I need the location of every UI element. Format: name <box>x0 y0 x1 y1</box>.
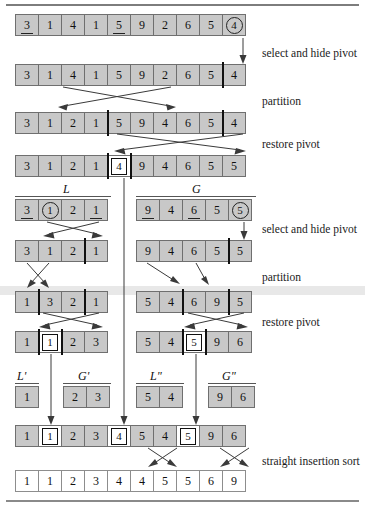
group-L-double-prime-cell: 4 <box>159 386 183 408</box>
partitioned-array-cell: 9 <box>130 112 154 134</box>
cell-value: 5 <box>231 160 237 172</box>
cell-value: 2 <box>72 391 78 403</box>
merged-array-cell: 1 <box>38 425 62 447</box>
caption-select-hide-pivot-1: select and hide pivot <box>262 47 357 59</box>
cell-value: 5 <box>208 19 214 31</box>
partitioned-array-cell: 6 <box>176 112 200 134</box>
top-rule <box>6 4 359 6</box>
cell-value: 4 <box>168 245 174 257</box>
caption-select-hide-pivot-2: select and hide pivot <box>262 223 357 235</box>
cell-value: 5 <box>116 69 122 81</box>
caption-partition-1: partition <box>262 95 301 107</box>
merged-array-cell: 9 <box>199 425 223 447</box>
cell-value: 4 <box>116 475 122 487</box>
merged-array-cell: 3 <box>84 425 108 447</box>
pivot-hidden-array-cell: 5 <box>199 64 223 86</box>
sub-L-hidden-row: 3121 <box>15 240 108 262</box>
sub-array-L-restored-cell: 3 <box>84 331 108 353</box>
cell-value: 4 <box>162 117 168 129</box>
sub-array-G-restored-cell: 9 <box>205 331 229 353</box>
sub-array-G-hidden-cell: 4 <box>159 240 183 262</box>
arrow-select-pivot-L <box>47 222 103 239</box>
sub-array-L-hidden-cell: 1 <box>38 240 62 262</box>
sub-array-L-restored-cell: 1 <box>38 331 62 353</box>
bottom-rule <box>6 500 359 502</box>
pivot-restored-array-cell: 1 <box>84 155 108 177</box>
sub-array-L-hidden-cell: 3 <box>15 240 39 262</box>
pivot-restored-array-cell: 6 <box>176 155 200 177</box>
cell-value: 2 <box>70 475 76 487</box>
pivot-hidden-array-cell: 4 <box>222 64 246 86</box>
group-L-prime-row: 1 <box>15 386 39 408</box>
group-rule-L-double-prime <box>136 383 184 384</box>
partitioned-array-cell: 4 <box>153 112 177 134</box>
group-label-L: L <box>63 182 70 197</box>
cell-value: 5 <box>145 391 151 403</box>
cell-value: 1 <box>93 296 99 308</box>
group-G-double-prime-cell: 6 <box>231 386 255 408</box>
arrow-partition-Lb <box>27 263 49 288</box>
cell-value: 9 <box>145 245 151 257</box>
pivot-restored-array-cell: 5 <box>222 155 246 177</box>
cell-value: 4 <box>231 69 237 81</box>
cell-value: 1 <box>47 69 53 81</box>
cell-value: 9 <box>214 296 220 308</box>
final-sorted-array-cell: 5 <box>153 470 177 492</box>
caption-restore-pivot-1: restore pivot <box>262 138 320 150</box>
cell-value: 2 <box>70 245 76 257</box>
cell-value: 6 <box>237 336 243 348</box>
cell-value: 4 <box>231 117 237 129</box>
cell-value: 4 <box>162 160 168 172</box>
cell-value: 1 <box>24 391 30 403</box>
group-rule-G-double-prime <box>208 383 256 384</box>
group-label-G: G <box>192 182 201 197</box>
cell-value: 2 <box>70 160 76 172</box>
partitioned-array-cell: 5 <box>199 112 223 134</box>
cell-value: 2 <box>162 19 168 31</box>
initial-array-cell: 9 <box>130 14 154 36</box>
cell-value: 5 <box>145 336 151 348</box>
cell-value: 9 <box>139 69 145 81</box>
group-label-L-double-prime: L" <box>150 369 162 384</box>
merged-array-cell: 5 <box>176 425 200 447</box>
cell-value: 5 <box>116 19 122 31</box>
sub-G-hidden-row: 94655 <box>136 240 252 262</box>
pivot-restored-array-cell: 4 <box>153 155 177 177</box>
pivot-hidden-array-cell: 2 <box>153 64 177 86</box>
pivot-hidden-array-cell: 3 <box>15 64 39 86</box>
partitioned-array-cell: 4 <box>222 112 246 134</box>
arrow-partition-Ga <box>147 263 180 284</box>
cell-value: 1 <box>93 117 99 129</box>
cell-value: 9 <box>208 430 214 442</box>
cell-value: 9 <box>145 204 151 216</box>
cell-value: 6 <box>231 430 237 442</box>
pivot-restored-row: 3121494655 <box>15 155 246 177</box>
group-G-prime-cell: 2 <box>63 386 87 408</box>
arrow-restore-La <box>39 313 99 330</box>
sub-array-G-partitioned-cell: 5 <box>136 291 160 313</box>
pivot-hidden-array-cell: 9 <box>130 64 154 86</box>
cell-value: 3 <box>24 117 30 129</box>
cell-value: 6 <box>191 204 197 216</box>
arrow-insertion-swap-d <box>220 448 249 467</box>
pivot-restored-array-cell: 3 <box>15 155 39 177</box>
sub-array-G-hidden-cell: 9 <box>136 240 160 262</box>
sub-array-L-select-cell: 1 <box>38 199 62 221</box>
arrow-restore-1b <box>117 134 246 155</box>
initial-array-cell: 4 <box>61 14 85 36</box>
cell-value: 4 <box>168 336 174 348</box>
cell-value: 5 <box>116 117 122 129</box>
arrow-Lpivot-to-merged <box>48 354 55 425</box>
sub-array-L-select-cell: 1 <box>84 199 108 221</box>
initial-array-cell: 5 <box>107 14 131 36</box>
sub-array-L-restored-cell: 2 <box>61 331 85 353</box>
final-sorted-array-cell: 2 <box>61 470 85 492</box>
sub-G-restored-row: 54596 <box>136 331 252 353</box>
cell-value: 1 <box>93 245 99 257</box>
cell-value: 4 <box>139 475 145 487</box>
cell-value: 2 <box>70 117 76 129</box>
partitioned-row: 3121594654 <box>15 112 246 134</box>
group-G-prime-cell: 3 <box>86 386 110 408</box>
sub-array-G-partitioned-cell: 5 <box>228 291 252 313</box>
initial-array-cell: 1 <box>84 14 108 36</box>
